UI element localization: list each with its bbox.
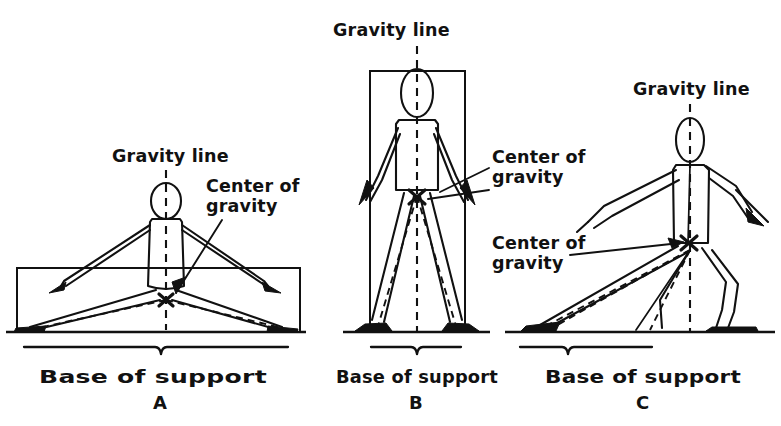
leg-right-upper-a [176,290,282,327]
arm-left-upper-c [588,170,676,222]
arm-left-lower-a [66,230,150,286]
panel-a: Gravity line [6,146,306,413]
hand-left-c [577,222,588,232]
base-of-support-brace-c [520,347,652,354]
biomechanics-diagram: Gravity line [0,0,781,426]
center-of-gravity-label-b-line1: Center of [492,147,586,167]
arm-right-lower-c [709,178,748,218]
center-of-gravity-label-c-line1: Center of [492,233,586,253]
arm-right-lower-a [182,230,266,286]
gravity-line-label-a: Gravity line [112,146,229,166]
base-of-support-brace-b [371,347,461,354]
arm-right-upper-a [182,225,268,286]
foot-left-b [355,323,392,331]
hand-right-c [746,208,764,226]
panel-letter-c: C [636,392,649,413]
hand-right-a [262,282,281,293]
gravity-line-label-b: Gravity line [333,20,450,40]
leg-front-upper-c [702,248,726,328]
panel-c: Gravity line [492,79,775,413]
foot-back-c [521,322,560,331]
base-of-support-label-b: Base of support [336,366,498,387]
base-of-support-label-c: Base of support [545,366,741,387]
panel-b: Gravity line [333,20,586,413]
center-of-gravity-label-a-line2: gravity [206,196,278,216]
base-of-support-brace-a [24,347,288,354]
center-of-gravity-marker-a [159,294,173,306]
hand-left-a [49,282,66,293]
center-of-gravity-label-c-line2: gravity [492,253,564,273]
foot-front-c [706,327,758,331]
center-of-gravity-arrowhead-c [668,238,684,248]
center-of-gravity-label-b-line2: gravity [492,167,564,187]
gravity-line-label-c: Gravity line [633,79,750,99]
center-of-gravity-label-a-line1: Center of [206,176,300,196]
diagram-canvas: Gravity line [0,0,781,426]
hand-left-b [359,180,374,205]
foot-right-b [442,323,479,331]
arm-right-upper-c [706,166,752,212]
panel-letter-b: B [409,392,423,413]
foot-left-a [14,326,46,332]
panel-letter-a: A [153,392,167,413]
cog-ray-front-solid-c [636,250,690,330]
base-of-support-label-a: Base of support [39,366,267,387]
arm-left-upper-a [61,225,150,286]
leg-left-upper-a [30,290,156,327]
